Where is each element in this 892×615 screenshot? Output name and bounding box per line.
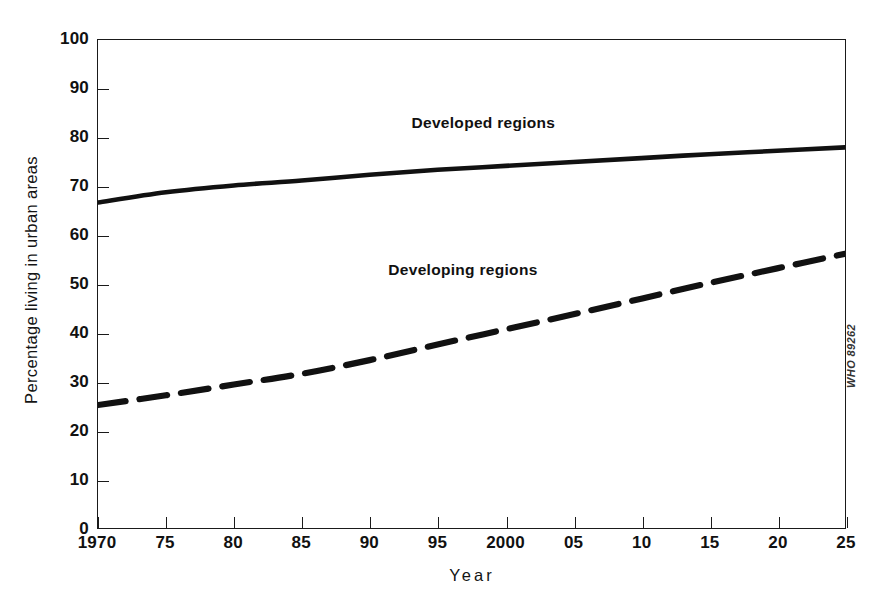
x-axis-tick-label: 95 [428, 533, 447, 553]
y-axis-tick-label: 90 [43, 78, 89, 98]
x-axis-tick-label: 20 [768, 533, 787, 553]
plot-area: Developed regionsDeveloping regions [97, 39, 846, 529]
series-label-developing: Developing regions [388, 261, 537, 279]
y-axis-tick-label: 40 [43, 323, 89, 343]
y-axis-tick-label: 70 [43, 176, 89, 196]
x-axis-title: Year [97, 566, 847, 585]
x-axis-tick-label: 2000 [486, 533, 525, 553]
x-axis-tick-label: 10 [632, 533, 651, 553]
x-axis-tick-label: 75 [155, 533, 174, 553]
y-axis-tick-label: 10 [43, 470, 89, 490]
x-axis-tick-label: 85 [292, 533, 311, 553]
x-axis-tick-label: 90 [360, 533, 379, 553]
x-axis-tick-label: 15 [700, 533, 719, 553]
x-axis-tick-label: 1970 [78, 533, 117, 553]
y-axis-tick-label: 50 [43, 274, 89, 294]
y-axis-tick-label: 100 [43, 29, 89, 49]
x-axis-tick-label: 25 [836, 533, 855, 553]
y-axis-tick-label: 20 [43, 421, 89, 441]
series-line-developed [98, 147, 845, 202]
series-layer [98, 40, 845, 528]
series-label-developed: Developed regions [412, 114, 556, 132]
x-axis-tick [847, 517, 848, 528]
y-axis-tick-label: 60 [43, 225, 89, 245]
x-axis-tick-label: 80 [224, 533, 243, 553]
y-axis-tick-label: 80 [43, 127, 89, 147]
urbanization-line-chart: Percentage living in urban areas Year WH… [0, 0, 892, 615]
x-axis-tick-label: 05 [564, 533, 583, 553]
who-credit-label: WHO 89262 [845, 238, 867, 388]
y-axis-tick-label: 30 [43, 372, 89, 392]
